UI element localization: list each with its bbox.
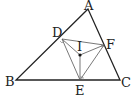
- label-i: I: [77, 39, 82, 54]
- label-d: D: [52, 25, 62, 40]
- label-f: F: [106, 37, 115, 52]
- label-a: A: [83, 0, 94, 13]
- label-b: B: [5, 74, 15, 89]
- label-c: C: [121, 75, 131, 90]
- triangle-def: [62, 39, 104, 80]
- label-e: E: [75, 83, 85, 98]
- incircle-diagram: A B C D E F I: [0, 0, 135, 99]
